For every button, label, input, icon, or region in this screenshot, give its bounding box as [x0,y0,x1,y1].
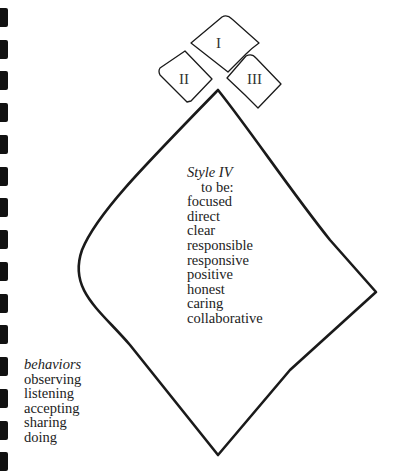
behavior-item: observing [24,372,81,387]
behaviors-title: behaviors [24,357,81,372]
behaviors-list: behaviors observing listening accepting … [24,357,81,445]
quality-item: responsive [187,253,263,268]
behavior-item: accepting [24,401,81,416]
behavior-item: doing [24,430,81,445]
quality-item: focused [187,194,263,209]
quality-item: positive [187,267,263,282]
quality-item: direct [187,209,263,224]
behavior-item: sharing [24,415,81,430]
quality-item: caring [187,296,263,311]
style-3-label: III [247,72,262,87]
style-4-text: Style IV to be: focused direct clear res… [187,165,263,326]
style-4-title: Style IV [187,165,263,180]
style-4-subtitle: to be: [187,180,263,195]
quality-item: collaborative [187,311,263,326]
diamond-style-1 [191,16,259,72]
behavior-item: listening [24,386,81,401]
quality-item: responsible [187,238,263,253]
quality-item: clear [187,223,263,238]
style-2-label: II [179,72,189,87]
style-1-label: I [216,36,221,51]
quality-item: honest [187,282,263,297]
